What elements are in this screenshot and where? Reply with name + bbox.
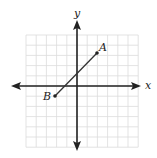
x-axis: x (11, 79, 152, 92)
point-b (53, 94, 57, 98)
point-b-label: B (42, 90, 51, 103)
y-axis: y (73, 7, 81, 151)
x-axis-label: x (145, 79, 152, 92)
point-a-label: A (98, 41, 107, 54)
y-axis-label: y (73, 7, 81, 20)
coordinate-plane: x y A B (0, 0, 157, 158)
